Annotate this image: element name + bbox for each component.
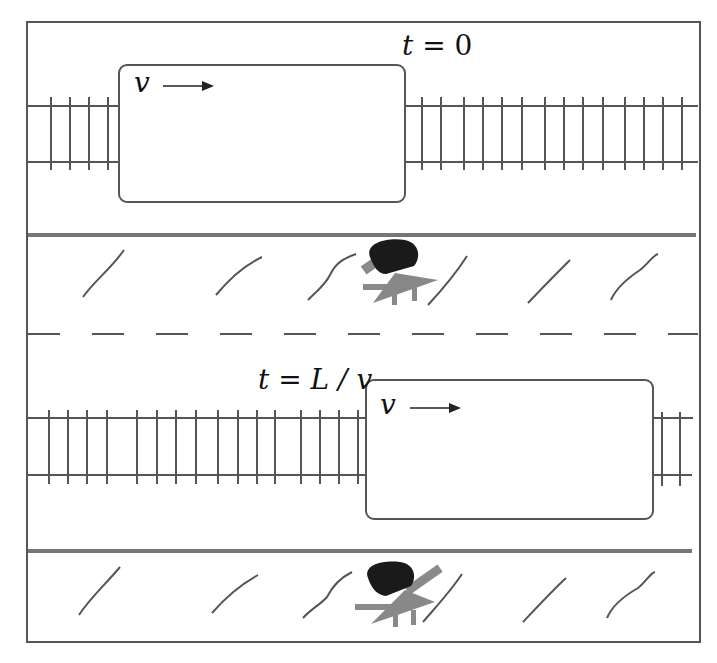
velocity-label-top: v <box>134 66 150 99</box>
time-value: 0 <box>455 29 473 62</box>
time-var: t <box>258 363 269 396</box>
train-car-top <box>119 65 405 202</box>
observer-figure-bottom <box>355 562 443 627</box>
time-var: t <box>402 29 413 62</box>
observer-figure-top <box>361 239 438 305</box>
train-diagram <box>0 0 717 663</box>
train-car-bottom <box>366 380 653 519</box>
time-label-top: t = 0 <box>402 29 472 62</box>
time-value: L / v <box>311 363 373 396</box>
time-label-bottom: t = L / v <box>258 363 372 396</box>
equals-sign: = <box>278 363 301 396</box>
ground-marks-bottom <box>79 567 655 622</box>
velocity-label-bottom: v <box>380 388 396 421</box>
equals-sign: = <box>422 29 445 62</box>
